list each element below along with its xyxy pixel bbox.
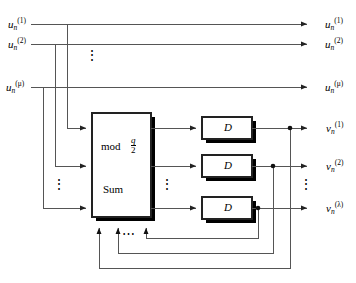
delay-block-1-label: D <box>224 122 232 133</box>
input-label-mu: un(μ) <box>6 80 24 95</box>
ellipsis-sum-inputs: ⋮ <box>52 178 66 192</box>
sum-block-mod-label: mod <box>101 141 121 152</box>
fraction-denominator: 2 <box>131 145 136 155</box>
sum-block-sum-label: Sum <box>103 184 123 195</box>
output-label-lambda: vn(λ) <box>326 201 343 216</box>
junction-dot-1 <box>288 126 293 131</box>
output-label-1: vn(1) <box>326 121 343 136</box>
delay-block-3-label: D <box>224 202 232 213</box>
ellipsis-outputs: ⋮ <box>299 178 313 192</box>
fraction-numerator: q <box>131 136 136 145</box>
delay-block-2-label: D <box>224 160 232 171</box>
junction-dot-3 <box>256 206 261 211</box>
output-label-2: vn(2) <box>326 159 343 174</box>
ellipsis-inputs: ⋮ <box>85 49 99 63</box>
junction-dot-2 <box>271 164 276 169</box>
passthrough-label-mu: un(μ) <box>325 80 343 95</box>
branch-line-1 <box>67 24 86 128</box>
sum-block-fraction: q 2 <box>131 136 136 156</box>
passthrough-label-1: un(1) <box>325 17 343 32</box>
branch-line-2 <box>55 44 86 166</box>
input-label-1: un(1) <box>8 17 26 32</box>
passthrough-label-2: un(2) <box>325 37 343 52</box>
ellipsis-sum-outputs: ⋮ <box>160 178 174 192</box>
sum-block <box>92 113 151 217</box>
input-label-2: un(2) <box>8 37 26 52</box>
diagram-canvas: un(1) un(2) un(μ) un(1) un(2) un(μ) vn(1… <box>0 0 356 283</box>
diagram-vector-layer <box>0 0 356 283</box>
ellipsis-feedback: ⋯ <box>122 227 136 240</box>
